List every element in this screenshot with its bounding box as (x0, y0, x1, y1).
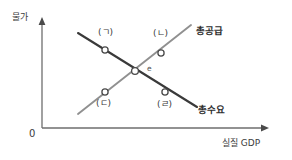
point-marker-r (162, 89, 168, 95)
y-axis-arrowhead (39, 17, 46, 25)
x-axis-arrowhead (261, 125, 269, 132)
equilibrium-label: e (147, 65, 152, 73)
y-axis (39, 17, 46, 128)
point-label-n: (ㄴ) (153, 29, 168, 38)
x-axis (42, 125, 269, 132)
demand-curve-label: 총수요 (198, 105, 225, 115)
point-label-r: (ㄹ) (157, 100, 172, 109)
chart-canvas (0, 0, 292, 160)
point-marker-equilibrium (132, 68, 139, 75)
economics-ad-as-diagram: 물가 실질 GDP 0 총공급 총수요 (ㄱ) (ㄴ) (ㄷ) (ㄹ) e (0, 0, 292, 160)
point-marker-d (102, 89, 108, 95)
y-axis-label: 물가 (12, 13, 28, 22)
supply-curve-label: 총공급 (196, 26, 223, 36)
point-marker-n (158, 50, 164, 56)
point-label-d: (ㄷ) (96, 99, 111, 108)
x-axis-label: 실질 GDP (222, 139, 260, 148)
point-marker-g (102, 47, 108, 53)
origin-label: 0 (29, 129, 35, 139)
point-label-g: (ㄱ) (98, 28, 113, 37)
